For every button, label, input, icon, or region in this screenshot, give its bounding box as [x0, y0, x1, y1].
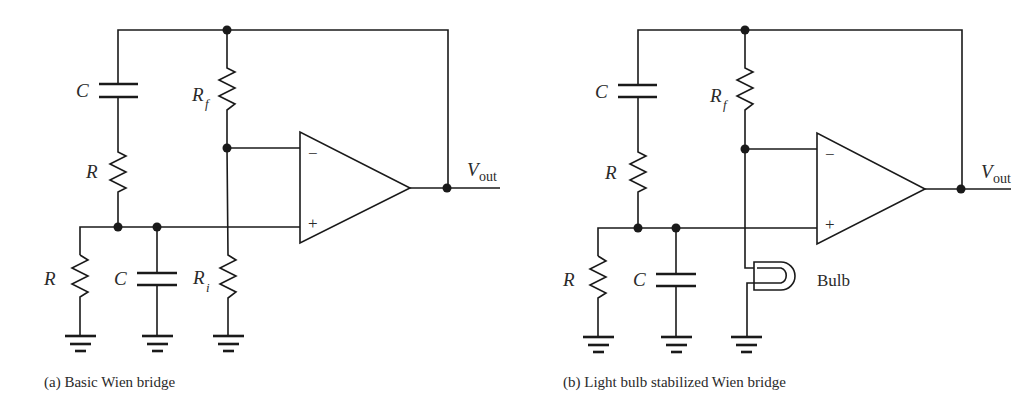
circuit-b-light-bulb-wien-bridge: C R R C R f — [562, 26, 1011, 353]
ground-icon — [142, 336, 173, 351]
label-series-r: R — [85, 161, 98, 182]
circuit-a-basic-wien-bridge: C R R C R f — [43, 26, 500, 352]
label-ri-sub: i — [206, 280, 210, 295]
junction-dot — [634, 224, 643, 233]
wire-top-feedback — [638, 30, 962, 188]
resistor-ri — [220, 148, 236, 335]
label-rf-sub: f — [723, 97, 729, 112]
junction-dot — [957, 185, 966, 194]
junction-dot — [114, 223, 123, 232]
capacitor-shunt-c — [656, 228, 696, 336]
label-series-c: C — [76, 80, 89, 101]
label-vout-sub: out — [479, 169, 497, 184]
resistor-shunt-r — [590, 256, 606, 336]
wire-noninverting-input — [80, 227, 300, 255]
label-rf: R — [709, 85, 722, 106]
label-rf: R — [191, 84, 204, 105]
label-inverting: − — [825, 145, 835, 164]
caption-a: (a) Basic Wien bridge — [44, 374, 175, 391]
resistor-series-r — [110, 148, 126, 227]
label-ri: R — [192, 267, 205, 288]
label-shunt-c: C — [114, 268, 127, 289]
ground-icon — [731, 337, 762, 352]
ground-icon — [213, 336, 244, 351]
label-noninverting: + — [308, 214, 318, 233]
capacitor-shunt-c — [137, 227, 177, 335]
label-noninverting: + — [825, 215, 835, 234]
resistor-rf — [219, 30, 235, 148]
label-shunt-c: C — [633, 269, 646, 290]
ground-icon — [65, 336, 96, 351]
caption-b: (b) Light bulb stabilized Wien bridge — [563, 374, 786, 391]
junction-dot — [443, 184, 452, 193]
ground-icon — [661, 337, 692, 352]
resistor-rf — [737, 30, 753, 149]
wire-top-feedback — [118, 30, 448, 188]
label-vout-sub: out — [993, 171, 1011, 186]
capacitor-series-c — [99, 84, 138, 148]
label-series-r: R — [604, 162, 617, 183]
label-series-c: C — [595, 81, 608, 102]
wire-noninverting-input — [598, 228, 817, 256]
label-shunt-r: R — [562, 269, 575, 290]
label-shunt-r: R — [43, 268, 56, 289]
label-inverting: − — [308, 144, 318, 163]
label-rf-sub: f — [205, 96, 211, 111]
ground-icon — [583, 337, 614, 352]
capacitor-series-c — [618, 85, 657, 148]
label-bulb: Bulb — [817, 271, 850, 290]
resistor-series-r — [630, 148, 646, 228]
light-bulb-icon — [745, 149, 795, 336]
resistor-shunt-r — [72, 255, 88, 335]
